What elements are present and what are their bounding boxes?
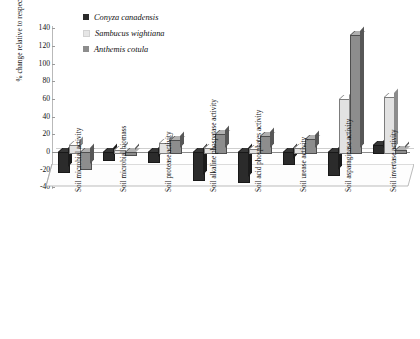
- bar: [58, 148, 68, 171]
- y-axis-title: % change relative to respective controls: [16, 0, 24, 112]
- bar: [103, 148, 113, 159]
- x-axis-tick-label: Soil invertase activity: [390, 62, 398, 192]
- y-axis-tick-mark: [52, 28, 55, 29]
- chart-floor: [46, 164, 414, 188]
- y-axis-tick-label: 100: [26, 60, 50, 67]
- legend-item: Conyza canadensis: [83, 9, 165, 25]
- y-axis-tick-label: 120: [26, 42, 50, 49]
- y-axis-tick-label: 80: [26, 77, 50, 84]
- y-axis-tick-label: 20: [26, 130, 50, 137]
- x-axis-labels: Soil microbial activitySoil microbial bi…: [52, 190, 412, 330]
- bar-side: [225, 126, 229, 148]
- bar: [328, 148, 338, 174]
- x-axis-tick-label: Soil urease activity: [300, 62, 308, 192]
- x-axis-tick-label: Soil protease activity: [165, 62, 173, 192]
- plot-area: 140120100806040200-20-40: [52, 24, 412, 189]
- bar: [373, 141, 383, 152]
- y-axis-tick-mark: [52, 99, 55, 100]
- bar: [193, 148, 203, 179]
- y-axis-tick-mark: [52, 81, 55, 82]
- bar-side: [90, 144, 94, 164]
- bar: [148, 148, 158, 161]
- bar-side: [270, 128, 274, 148]
- x-axis-tick-label: Soil microbial activity: [75, 62, 83, 192]
- y-axis-tick-label: 40: [26, 113, 50, 120]
- bar-side: [180, 131, 184, 148]
- y-axis-tick-mark: [52, 134, 55, 135]
- square-swatch-icon: [83, 14, 89, 20]
- y-axis-tick-label: 0: [26, 148, 50, 155]
- x-axis-tick-label: Soil acid phosphates activity: [255, 62, 263, 192]
- y-axis-tick-mark: [52, 46, 55, 47]
- bar-chart: % change relative to respective controls…: [0, 0, 420, 339]
- y-axis-tick-mark: [52, 117, 55, 118]
- y-axis-tick-mark: [52, 64, 55, 65]
- bar: [283, 148, 293, 163]
- y-axis-tick-label: 60: [26, 95, 50, 102]
- bar: [238, 148, 248, 181]
- legend-item-label: Conyza canadensis: [94, 13, 158, 22]
- x-axis-tick-label: Soil alkaline phospatase activity: [210, 62, 218, 192]
- y-axis-tick-label: 140: [26, 24, 50, 31]
- bar-side: [315, 130, 319, 148]
- x-axis-tick-label: Soil asparaginase activity: [345, 62, 353, 192]
- bar-side: [360, 27, 364, 148]
- x-axis-tick-label: Soil microbial biomass: [120, 62, 128, 192]
